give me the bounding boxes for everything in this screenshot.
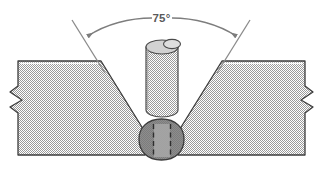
electrode-core-wire bbox=[164, 39, 181, 48]
weld-groove-angle-diagram: 75° bbox=[0, 0, 321, 172]
weld-bead bbox=[139, 119, 184, 160]
electrode bbox=[146, 39, 181, 117]
weld-bead-center-pass bbox=[154, 124, 170, 157]
electrode-body bbox=[146, 47, 178, 117]
diagram-canvas: 75° bbox=[0, 0, 321, 172]
angle-label: 75° bbox=[153, 12, 171, 24]
